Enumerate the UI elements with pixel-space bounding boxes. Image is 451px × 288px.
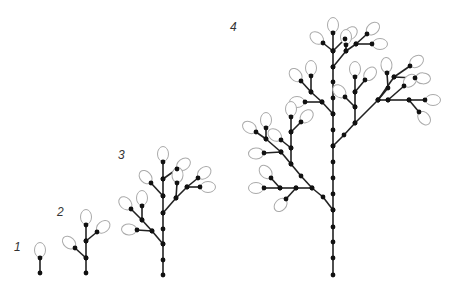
node-dot — [175, 181, 180, 186]
node-dot — [342, 133, 347, 138]
stem-segment — [152, 231, 163, 244]
node-dot — [161, 242, 166, 247]
node-dot — [198, 185, 203, 190]
node-dot — [331, 176, 336, 181]
node-dot — [95, 230, 100, 235]
bud-icon — [158, 147, 169, 162]
node-dot — [269, 176, 274, 181]
node-dot — [408, 64, 413, 69]
stem-segment — [163, 198, 176, 213]
node-dot — [331, 80, 336, 85]
node-dot — [150, 229, 155, 234]
node-dot — [38, 271, 43, 276]
node-dot — [264, 126, 269, 131]
node-dot — [289, 130, 294, 135]
node-dot — [84, 256, 89, 261]
node-dot — [84, 223, 89, 228]
stem-segment — [333, 51, 346, 67]
stem-segment — [301, 176, 312, 188]
node-dot — [310, 186, 315, 191]
node-dot — [174, 196, 179, 201]
node-dot — [353, 121, 358, 126]
node-dot — [299, 174, 304, 179]
node-dot — [299, 120, 304, 125]
node-dot — [354, 42, 359, 47]
node-dot — [331, 273, 336, 278]
node-dot — [331, 65, 336, 70]
node-dot — [363, 78, 368, 83]
node-dot — [321, 195, 326, 200]
node-dot — [289, 162, 294, 167]
node-dot — [344, 49, 349, 54]
bud-icon — [380, 57, 392, 73]
node-dot — [73, 246, 78, 251]
node-dot — [149, 181, 154, 186]
node-dot — [321, 41, 326, 46]
stem-segment — [344, 123, 355, 135]
node-dot — [135, 228, 140, 233]
node-dot — [279, 150, 284, 155]
node-dot — [140, 218, 145, 223]
bud-icon — [261, 113, 272, 128]
node-dot — [331, 256, 336, 261]
node-dot — [386, 98, 391, 103]
bud-icon — [201, 182, 216, 193]
node-dot — [262, 186, 267, 191]
node-dot — [353, 75, 358, 80]
node-dot — [175, 167, 180, 172]
node-dot — [353, 105, 358, 110]
node-dot — [161, 160, 166, 165]
node-dot — [331, 31, 336, 36]
node-dot — [303, 100, 308, 105]
growth-diagram — [0, 0, 451, 288]
node-dot — [161, 177, 166, 182]
node-dot — [386, 86, 391, 91]
stem-segment — [322, 102, 333, 114]
node-dot — [161, 194, 166, 199]
node-dot — [254, 130, 259, 135]
node-dot — [161, 227, 166, 232]
node-dot — [331, 208, 336, 213]
node-dot — [278, 186, 283, 191]
node-dot — [413, 76, 418, 81]
bud-icon — [306, 61, 317, 76]
node-dot — [289, 146, 294, 151]
node-dot — [331, 225, 336, 230]
node-dot — [417, 110, 422, 115]
bud-icon — [350, 62, 361, 77]
node-dot — [309, 90, 314, 95]
stem-segment — [355, 100, 378, 123]
bud-icon — [137, 191, 148, 206]
bud-icon — [121, 223, 137, 235]
bud-icon — [81, 210, 92, 225]
node-dot — [84, 239, 89, 244]
node-dot — [320, 100, 325, 105]
node-dot — [140, 204, 145, 209]
bud-icon — [328, 18, 339, 33]
bud-icon — [35, 243, 46, 258]
node-dot — [294, 186, 299, 191]
bud-icon — [415, 73, 431, 85]
node-dot — [289, 115, 294, 120]
node-dot — [423, 98, 428, 103]
node-dot — [299, 79, 304, 84]
stem-segment — [264, 152, 281, 153]
node-dot — [284, 197, 289, 202]
node-dot — [331, 160, 336, 165]
node-dot — [331, 112, 336, 117]
node-dot — [185, 185, 190, 190]
node-dot — [370, 42, 375, 47]
node-dot — [376, 98, 381, 103]
node-dot — [331, 144, 336, 149]
stem-segment — [151, 183, 163, 196]
node-dot — [331, 128, 336, 133]
node-dot — [365, 32, 370, 37]
stem-segment — [323, 197, 333, 210]
node-dot — [84, 271, 89, 276]
node-dot — [309, 74, 314, 79]
node-dot — [392, 75, 397, 80]
node-dot — [262, 151, 267, 156]
node-dot — [264, 137, 269, 142]
bud-icon — [248, 148, 264, 160]
node-dot — [343, 95, 348, 100]
